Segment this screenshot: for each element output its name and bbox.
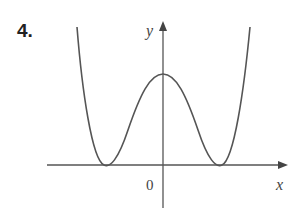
x-axis-arrow-icon: [278, 161, 288, 169]
graph: y x 0: [0, 0, 294, 209]
y-axis-label: y: [144, 22, 154, 40]
x-axis-label: x: [275, 176, 283, 193]
origin-label: 0: [146, 177, 154, 193]
y-axis-arrow-icon: [159, 21, 167, 31]
